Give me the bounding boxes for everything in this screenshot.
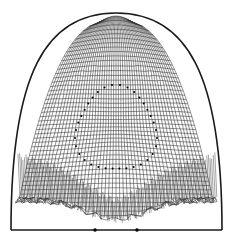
inner-outline-dot xyxy=(75,145,77,147)
inner-outline-dot xyxy=(127,86,129,88)
inner-outline-dot xyxy=(153,122,155,124)
inner-outline-dot xyxy=(105,167,107,169)
inner-outline-dot xyxy=(104,86,106,88)
inner-outline-dot xyxy=(119,84,121,86)
inner-outline-dot xyxy=(138,97,140,99)
baseline-marker-dot xyxy=(135,228,139,232)
inner-outline-dot xyxy=(140,164,142,166)
inner-outline-dot xyxy=(156,137,158,139)
deformed-mesh xyxy=(15,16,217,223)
inner-outline-dot xyxy=(118,168,120,170)
mesh-diagram-canvas xyxy=(0,0,234,247)
baseline-marker-dot xyxy=(93,228,97,232)
inner-outline-dot xyxy=(143,103,145,105)
inner-outline-dot xyxy=(74,137,76,139)
inner-outline-dot xyxy=(97,91,99,93)
inner-outline-dot xyxy=(146,109,148,111)
inner-outline-dot xyxy=(155,145,157,147)
inner-outline-dot xyxy=(152,153,154,155)
mesh-lines xyxy=(15,16,217,220)
inner-outline-dot xyxy=(133,91,135,93)
inner-outline-dot xyxy=(111,84,113,86)
mesh-figure xyxy=(0,0,234,247)
inner-outline-dot xyxy=(150,115,152,117)
inner-outline-dot xyxy=(75,129,77,131)
inner-outline-dot xyxy=(155,129,157,131)
inner-outline-dot xyxy=(84,159,86,161)
inner-outline-dot xyxy=(84,109,86,111)
inner-outline-dot xyxy=(90,164,92,166)
inner-outline-dot xyxy=(92,97,94,99)
inner-outline-dot xyxy=(112,168,114,170)
inner-outline-dot xyxy=(77,122,79,124)
inner-outline-dot xyxy=(87,103,89,105)
inner-outline-dot xyxy=(97,166,99,168)
inner-outline-dot xyxy=(133,166,135,168)
inner-outline-dot xyxy=(125,167,127,169)
inner-outline-dot xyxy=(80,115,82,117)
inner-outline-dot xyxy=(78,153,80,155)
inner-outline-dot xyxy=(146,159,148,161)
